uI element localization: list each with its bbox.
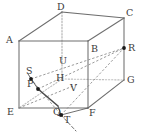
point-dots-group bbox=[29, 46, 126, 117]
point-dot-R bbox=[122, 46, 126, 50]
point-label-R: R bbox=[128, 43, 135, 53]
vertex-label-C: C bbox=[126, 8, 133, 18]
line-SR bbox=[31, 48, 124, 79]
edge-HG-hidden bbox=[62, 79, 124, 80]
point-label-U: U bbox=[59, 56, 67, 66]
edge-BC bbox=[88, 18, 124, 41]
point-dot-P bbox=[36, 87, 40, 91]
solid-edges-group bbox=[19, 12, 124, 108]
point-label-S: S bbox=[26, 66, 33, 76]
point-label-P: P bbox=[27, 79, 33, 89]
vertex-label-A: A bbox=[6, 35, 13, 45]
line-PQ bbox=[38, 89, 58, 106]
vertex-label-D: D bbox=[57, 2, 65, 12]
vertex-label-B: B bbox=[91, 44, 98, 54]
vertex-label-F: F bbox=[89, 108, 96, 118]
edge-AD bbox=[19, 12, 62, 41]
hidden-edges-group bbox=[19, 12, 124, 108]
vertex-label-G: G bbox=[127, 75, 135, 85]
cuboid-diagram-svg bbox=[0, 0, 144, 139]
line-PR bbox=[38, 48, 124, 89]
edge-DC bbox=[62, 12, 124, 18]
point-label-Q: Q bbox=[53, 107, 61, 117]
geometry-figure-canvas: A B C D E F G H P Q R S T U V bbox=[0, 0, 144, 139]
point-label-V: V bbox=[70, 83, 77, 93]
edge-FG bbox=[88, 80, 124, 108]
vertex-label-H: H bbox=[56, 73, 64, 83]
vertex-label-E: E bbox=[7, 107, 14, 117]
point-label-T: T bbox=[64, 115, 70, 125]
